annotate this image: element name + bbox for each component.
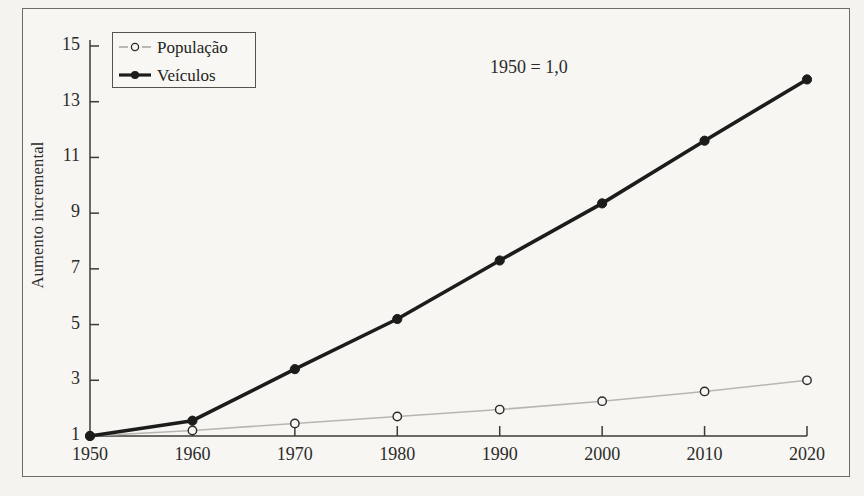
x-tick-label: 2020 [772,444,842,465]
x-tick-label: 1990 [465,444,535,465]
x-tick-label: 2000 [567,444,637,465]
x-tick-label: 2010 [670,444,740,465]
chart-figure: Aumento incremental 13579111315 19501960… [0,0,864,496]
legend-label-veiculos: Veículos [157,67,216,84]
axes [90,40,807,436]
y-tick-label: 3 [40,368,80,389]
y-tick-label: 15 [40,34,80,55]
y-tick-label: 5 [40,313,80,334]
data-series [85,75,811,441]
legend-item-populacao: População [113,33,255,61]
filled-circle-marker-icon [118,68,152,82]
baseline-annotation: 1950 = 1,0 [490,57,568,78]
y-tick-label: 13 [40,90,80,111]
legend-label-populacao: População [157,39,228,56]
y-tick-label: 9 [40,201,80,222]
x-tick-label: 1980 [362,444,432,465]
open-circle-marker-icon [118,40,152,54]
y-tick-label: 1 [40,424,80,445]
y-tick-label: 11 [40,145,80,166]
chart-legend: População Veículos [112,32,256,88]
x-tick-label: 1960 [157,444,227,465]
x-tick-label: 1970 [260,444,330,465]
y-tick-label: 7 [40,257,80,278]
legend-item-veiculos: Veículos [113,61,255,89]
x-tick-label: 1950 [55,444,125,465]
